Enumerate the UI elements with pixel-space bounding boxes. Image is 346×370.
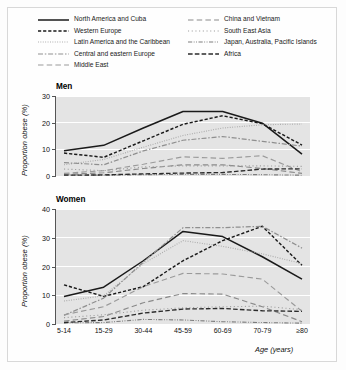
y-axis-tick xyxy=(52,238,55,239)
x-axis-label: Age (years) xyxy=(255,345,293,354)
x-axis-tick-label: 30-44 xyxy=(125,327,161,334)
legend-item: North America and Cuba xyxy=(38,14,188,25)
y-axis-men xyxy=(55,96,56,177)
legend-item: Middle East xyxy=(38,60,188,71)
y-axis-tick-label: 10 xyxy=(28,291,50,300)
y-axis-tick xyxy=(52,96,55,97)
legend-line-swatch-icon xyxy=(38,49,69,59)
y-axis-tick-label: 20 xyxy=(28,263,50,272)
y-axis-tick xyxy=(52,267,55,268)
legend-item-label: North America and Cuba xyxy=(74,16,146,23)
legend-line-swatch-icon xyxy=(38,60,69,70)
legend-item: South East Asia xyxy=(188,25,340,36)
x-axis-tick-label: 45-59 xyxy=(165,327,201,334)
y-axis-tick-label: 20 xyxy=(28,119,50,128)
legend-item: Western Europe xyxy=(38,25,188,36)
legend-item-label: Africa xyxy=(224,51,241,58)
legend-item: Central and eastern Europe xyxy=(38,48,188,59)
legend-line-swatch-icon xyxy=(188,37,219,47)
plot-area-women xyxy=(56,209,310,324)
series-line xyxy=(64,116,302,158)
x-axis-tick-label: 60-69 xyxy=(205,327,241,334)
y-axis-tick xyxy=(52,149,55,150)
series-line xyxy=(64,226,302,296)
legend-item-label: Japan, Australia, Pacific Islands xyxy=(224,39,317,46)
y-axis-women xyxy=(55,209,56,325)
legend-line-swatch-icon xyxy=(188,49,219,59)
x-axis-tick-label: 70-79 xyxy=(244,327,280,334)
y-axis-tick-label: 30 xyxy=(28,234,50,243)
legend-item-label: Western Europe xyxy=(74,28,122,35)
legend-column-left: North America and CubaWestern EuropeLati… xyxy=(38,14,188,71)
panel-women: Women Proportion obese (%) 010203040 xyxy=(0,193,346,338)
y-axis-tick xyxy=(52,123,55,124)
y-axis-tick-label: 0 xyxy=(28,172,50,181)
legend-item: China and Vietnam xyxy=(188,14,340,25)
panel-title-women: Women xyxy=(56,195,85,204)
y-axis-tick xyxy=(52,295,55,296)
figure: North America and CubaWestern EuropeLati… xyxy=(0,0,346,370)
series-line xyxy=(64,124,302,165)
legend-item-label: Middle East xyxy=(74,62,108,69)
legend-line-swatch-icon xyxy=(188,15,219,25)
y-axis-label-men: Proportion obese (%) xyxy=(20,104,29,176)
panel-men: Men Proportion obese (%) 0102030 xyxy=(0,80,346,190)
legend-line-swatch-icon xyxy=(38,37,69,47)
x-axis-tick-label: 5-14 xyxy=(46,327,82,334)
series-line xyxy=(64,166,302,171)
legend-column-right: China and VietnamSouth East AsiaJapan, A… xyxy=(188,14,340,60)
legend-line-swatch-icon xyxy=(38,15,69,25)
legend-item: Latin America and the Caribbean xyxy=(38,37,188,48)
series-line xyxy=(64,156,302,174)
y-axis-tick xyxy=(52,176,55,177)
legend-item-label: South East Asia xyxy=(224,28,271,35)
series-line xyxy=(64,137,302,165)
legend: North America and CubaWestern EuropeLati… xyxy=(38,14,338,72)
y-axis-tick xyxy=(52,209,55,210)
x-axis-tick-label: 15-29 xyxy=(86,327,122,334)
series-layer xyxy=(56,209,310,324)
series-line xyxy=(64,226,302,315)
legend-item-label: Central and eastern Europe xyxy=(74,51,155,58)
y-axis-tick-label: 10 xyxy=(28,145,50,154)
legend-line-swatch-icon xyxy=(188,26,219,36)
legend-line-swatch-icon xyxy=(38,26,69,36)
y-axis-tick xyxy=(52,324,55,325)
legend-item: Africa xyxy=(188,48,340,59)
series-line xyxy=(64,111,302,154)
legend-item-label: Latin America and the Caribbean xyxy=(74,39,170,46)
y-axis-tick-label: 40 xyxy=(28,205,50,214)
x-axis-tick-label: ≥80 xyxy=(284,327,320,334)
legend-item: Japan, Australia, Pacific Islands xyxy=(188,37,340,48)
series-line xyxy=(64,241,302,301)
panel-title-men: Men xyxy=(56,82,72,91)
series-layer xyxy=(56,96,310,176)
legend-item-label: China and Vietnam xyxy=(224,16,280,23)
plot-area-men xyxy=(56,96,310,176)
y-axis-tick-label: 30 xyxy=(28,92,50,101)
